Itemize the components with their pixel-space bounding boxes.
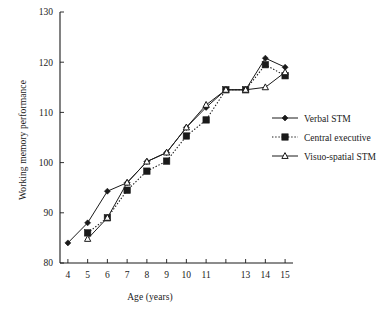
x-tick-label: 5 bbox=[85, 270, 90, 280]
chart-series-layer bbox=[65, 55, 288, 246]
marker-triangle bbox=[203, 101, 209, 107]
marker-triangle bbox=[282, 69, 288, 75]
legend-item-3: Visuo-spatial STM bbox=[272, 152, 377, 162]
series-line bbox=[68, 58, 285, 243]
marker-diamond bbox=[282, 115, 288, 121]
marker-diamond bbox=[262, 55, 268, 61]
x-tick-label: 15 bbox=[280, 270, 290, 280]
chart-series-1 bbox=[65, 55, 288, 246]
x-tick-label: 10 bbox=[182, 270, 192, 280]
legend-item-1: Verbal STM bbox=[272, 114, 351, 124]
legend-item-2: Central executive bbox=[272, 133, 371, 143]
series-line bbox=[88, 72, 285, 239]
x-tick-label: 13 bbox=[241, 270, 251, 280]
legend-label: Central executive bbox=[304, 133, 371, 143]
chart-figure: Working memory performance Age (years) 8… bbox=[0, 0, 391, 313]
y-axis-title: Working memory performance bbox=[18, 60, 28, 220]
y-tick-label: 130 bbox=[39, 7, 54, 17]
marker-triangle bbox=[262, 84, 268, 90]
x-tick-label: 4 bbox=[66, 270, 71, 280]
y-tick-label: 120 bbox=[39, 58, 54, 68]
marker-square bbox=[282, 134, 288, 140]
chart-series-2 bbox=[84, 62, 288, 237]
y-tick-label: 80 bbox=[44, 258, 54, 268]
x-tick-label: 8 bbox=[145, 270, 150, 280]
marker-square bbox=[203, 117, 209, 123]
x-tick-label: 6 bbox=[105, 270, 110, 280]
x-tick-label: 11 bbox=[202, 270, 211, 280]
x-tick-label: 14 bbox=[261, 270, 271, 280]
chart-legend: Verbal STMCentral executiveVisuo-spatial… bbox=[272, 114, 377, 162]
legend-label: Verbal STM bbox=[304, 114, 351, 124]
marker-square bbox=[183, 133, 189, 139]
series-line bbox=[88, 65, 285, 233]
chart-series-3 bbox=[85, 69, 289, 242]
marker-square bbox=[163, 158, 169, 164]
y-tick-label: 100 bbox=[39, 158, 54, 168]
marker-square bbox=[144, 168, 150, 174]
y-tick-label: 90 bbox=[44, 208, 54, 218]
chart-plot-area: 8090100110120130 4567891011131415 Verbal… bbox=[0, 0, 391, 313]
y-tick-label: 110 bbox=[39, 108, 53, 118]
marker-square bbox=[124, 187, 130, 193]
legend-label: Visuo-spatial STM bbox=[304, 152, 377, 162]
marker-square bbox=[262, 62, 268, 68]
x-tick-label: 7 bbox=[125, 270, 130, 280]
x-axis-ticks: 4567891011131415 bbox=[66, 259, 291, 280]
x-axis-title: Age (years) bbox=[0, 292, 300, 302]
marker-diamond bbox=[104, 188, 110, 194]
x-tick-label: 9 bbox=[164, 270, 169, 280]
